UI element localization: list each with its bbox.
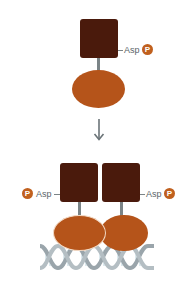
asp-label-top: Asp (124, 45, 140, 55)
receiver-domain-top (80, 19, 118, 58)
phosphate-icon-right: P (164, 188, 175, 199)
linker-left (78, 202, 81, 216)
arrow-down-icon (93, 118, 105, 142)
dna-binding-domain-right (100, 215, 148, 251)
asp-connector-top (118, 50, 123, 51)
receiver-domain-left (60, 163, 98, 202)
linker-right (120, 202, 123, 216)
asp-connector-right (140, 194, 145, 195)
phosphate-icon-left: P (22, 188, 33, 199)
asp-label-right: Asp (146, 189, 162, 199)
receiver-domain-right (102, 163, 140, 202)
dna-binding-domain-left (53, 215, 106, 251)
asp-connector-left (54, 194, 60, 195)
dna-binding-domain-top (72, 70, 125, 108)
phosphate-icon-top: P (142, 44, 153, 55)
asp-label-left: Asp (36, 189, 52, 199)
